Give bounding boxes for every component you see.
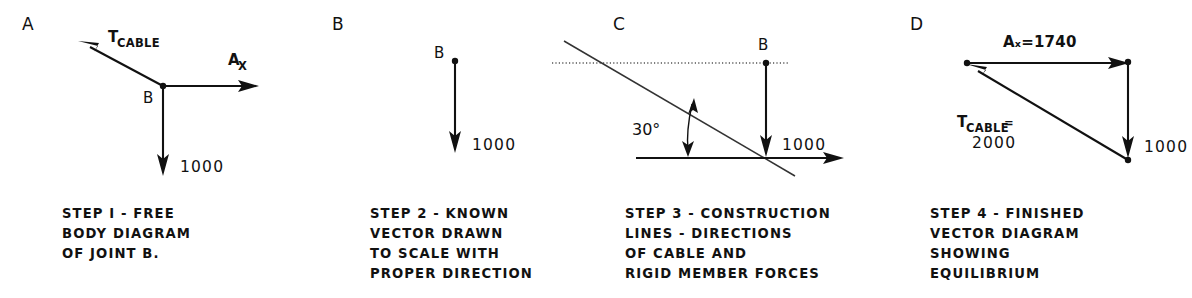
vector-t-cable-d-label-sub: CABLE xyxy=(966,121,1009,135)
caption-b-line-1: STEP 2 - KNOWN xyxy=(370,206,509,221)
vector-t-cable-d: T CABLE = 2000 xyxy=(957,64,1128,160)
figure-root: A T CABLE A X 1000 xyxy=(0,0,1192,298)
caption-b-line-3: TO SCALE WITH xyxy=(370,246,500,261)
caption-b-line-2: VECTOR DRAWN xyxy=(370,226,503,241)
caption-a: STEP I - FREE BODY DIAGRAM OF JOINT B. xyxy=(62,206,191,261)
angle-label-30: 30° xyxy=(632,120,660,139)
vector-load-a: 1000 xyxy=(157,86,224,176)
panel-letter-b: B xyxy=(332,14,344,34)
caption-d-line-3: SHOWING xyxy=(930,246,1011,261)
panel-letter-c: C xyxy=(613,14,625,34)
caption-a-line-3: OF JOINT B. xyxy=(62,246,160,261)
vector-ax-d-label: Aₓ=1740 xyxy=(1003,33,1077,51)
vector-load-d: 1000 xyxy=(1122,63,1188,158)
caption-d-line-2: VECTOR DIAGRAM xyxy=(930,226,1080,241)
vector-ax-label-sub: X xyxy=(238,59,247,73)
panel-letter-a: A xyxy=(22,14,34,34)
force-diagram-svg: A T CABLE A X 1000 xyxy=(0,0,1192,298)
caption-c-line-2: LINES - DIRECTIONS xyxy=(625,226,793,241)
caption-c-line-1: STEP 3 - CONSTRUCTION xyxy=(625,206,831,221)
vertex-dot-top-left-d xyxy=(964,60,970,66)
caption-d-line-1: STEP 4 - FINISHED xyxy=(930,206,1085,221)
caption-a-line-2: BODY DIAGRAM xyxy=(62,226,191,241)
vertex-dot-top-right-d xyxy=(1125,59,1131,65)
vector-load-d-magnitude: 1000 xyxy=(1144,138,1188,156)
vertex-dot-bottom-right-d xyxy=(1125,157,1131,163)
caption-a-line-1: STEP I - FREE xyxy=(62,206,175,221)
panel-letter-d: D xyxy=(910,14,924,34)
joint-label-b-c: B xyxy=(758,36,768,54)
panel-b: B 1000 B STEP 2 - KNOWN VECTOR DRAWN TO … xyxy=(332,14,533,281)
panel-c: C 30° 1000 B xyxy=(552,14,844,281)
vector-load-c: 1000 xyxy=(760,63,826,157)
panel-d: D Aₓ=1740 1000 T CABLE = 2000 xyxy=(910,14,1188,281)
panel-a: A T CABLE A X 1000 xyxy=(22,14,259,261)
vector-t-cable-d-magnitude: 2000 xyxy=(972,134,1016,152)
vector-load-b-magnitude: 1000 xyxy=(472,136,516,154)
vector-t-cable-shaft xyxy=(90,47,163,86)
vector-load-b: 1000 xyxy=(449,61,516,154)
caption-c: STEP 3 - CONSTRUCTION LINES - DIRECTIONS… xyxy=(625,206,831,281)
vector-load-magnitude: 1000 xyxy=(180,158,224,176)
vector-t-cable-d-label-equals: = xyxy=(1004,116,1014,130)
construction-line-cable-direction xyxy=(564,41,795,176)
joint-label-b-b: B xyxy=(434,44,444,62)
joint-dot-b-a xyxy=(160,83,166,89)
caption-c-line-3: OF CABLE AND xyxy=(625,246,747,261)
caption-c-line-4: RIGID MEMBER FORCES xyxy=(625,266,820,281)
joint-dot-b-b xyxy=(452,58,458,64)
vector-t-cable-label-sub: CABLE xyxy=(117,36,160,50)
vector-t-cable-a: T CABLE xyxy=(78,28,163,86)
vector-ax-d: Aₓ=1740 xyxy=(967,33,1129,69)
caption-d: STEP 4 - FINISHED VECTOR DIAGRAM SHOWING… xyxy=(930,206,1085,281)
caption-d-line-4: EQUILIBRIUM xyxy=(930,266,1040,281)
angle-arc-arrowhead-top xyxy=(688,98,698,114)
vector-ax-a: A X xyxy=(163,51,259,92)
joint-dot-b-c xyxy=(763,60,769,66)
angle-marker-30: 30° xyxy=(632,98,698,157)
caption-b-line-4: PROPER DIRECTION xyxy=(370,266,533,281)
caption-b: STEP 2 - KNOWN VECTOR DRAWN TO SCALE WIT… xyxy=(370,206,533,281)
joint-label-b-a: B xyxy=(143,89,153,107)
vector-load-c-magnitude: 1000 xyxy=(782,136,826,154)
